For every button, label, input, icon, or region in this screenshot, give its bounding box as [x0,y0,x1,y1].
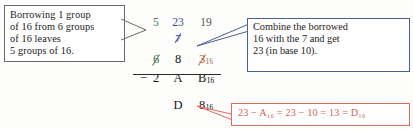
callout-right-line-3: 23 (in base 10). [253,45,406,57]
callout-right-pointer-icon [196,22,250,50]
borrow-digit-col1: 5 [147,16,165,29]
callout-left-line-1: Borrowing 1 group [10,9,120,21]
red-equation-text: 23 − A₁₆ = 23 − 10 = 13 = D₁₆ [238,107,407,119]
answer-digit-col2: D [165,98,191,113]
subtrahend-row: − 2 A B16 [131,68,221,86]
callout-red-pointer-icon [196,100,236,126]
subtraction-rule-line [133,74,221,75]
minuend-base-subscript: 16 [206,58,213,66]
callout-red-equation: 23 − A₁₆ = 23 − 10 = 13 = D₁₆ [231,103,410,126]
crossed-seven-digit: 7 [165,32,191,44]
callout-left-line-3: of 16 leaves [10,33,120,45]
minuend-row: 6 8 316 [131,49,221,67]
subtrahend-base-subscript: 16 [207,77,214,85]
minuend-digit-col3: 3 [199,52,205,67]
minuend-digit-col1: 6 [147,52,165,67]
callout-right-combine: Combine the borrowed 16 with the 7 and g… [247,18,410,72]
callout-right-line-2: 16 with the 7 and get [253,33,406,45]
callout-left-line-2: of 16 from 6 groups [10,21,120,33]
callout-left-line-4: 5 groups of 16. [10,45,120,57]
minuend-digit-col2: 8 [165,52,191,67]
callout-right-line-1: Combine the borrowed [253,21,406,33]
hex-subtraction-figure: Borrowing 1 group of 16 from 6 groups of… [0,0,413,129]
subtrahend-col3-group: B16 [191,68,221,86]
callout-left-borrowing: Borrowing 1 group of 16 from 6 groups of… [4,5,125,62]
minuend-col3-group: 316 [191,49,221,67]
borrow-digit-col2: 23 [165,16,191,29]
